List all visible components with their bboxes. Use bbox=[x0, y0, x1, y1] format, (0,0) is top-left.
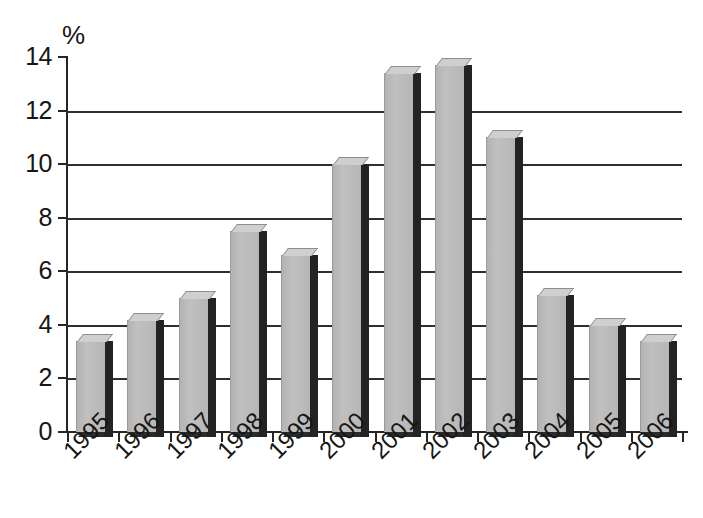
bar bbox=[486, 137, 523, 432]
bar-front-face bbox=[384, 73, 413, 432]
y-tick-mark bbox=[58, 217, 67, 219]
y-tick-mark bbox=[58, 431, 67, 433]
y-tick-label: 14 bbox=[0, 44, 52, 69]
y-tick-mark bbox=[58, 377, 67, 379]
bar-top-face bbox=[436, 58, 472, 66]
y-axis-unit-label: % bbox=[62, 22, 85, 48]
bar bbox=[384, 73, 421, 432]
y-tick-mark bbox=[58, 56, 67, 58]
bar-front-face bbox=[281, 255, 310, 432]
y-tick-label: 12 bbox=[0, 98, 52, 123]
bar-top-face bbox=[384, 66, 420, 74]
bar-top-face bbox=[179, 291, 215, 299]
bar-side-face bbox=[360, 164, 369, 437]
y-tick-label: 8 bbox=[0, 205, 52, 230]
bar bbox=[435, 65, 472, 432]
y-tick-mark bbox=[58, 163, 67, 165]
bar-top-face bbox=[589, 318, 625, 326]
x-tick-mark bbox=[682, 431, 684, 442]
bar-side-face bbox=[514, 137, 523, 437]
bar-top-face bbox=[77, 334, 113, 342]
bar-top-face bbox=[231, 224, 267, 232]
bar-front-face bbox=[435, 65, 464, 432]
bar bbox=[332, 164, 369, 432]
bar-side-face bbox=[463, 65, 472, 437]
bar bbox=[230, 231, 267, 432]
bar-top-face bbox=[128, 313, 164, 321]
bar-side-face bbox=[309, 255, 318, 437]
bar bbox=[281, 255, 318, 432]
bar-side-face bbox=[412, 73, 421, 437]
y-tick-label: 4 bbox=[0, 312, 52, 337]
bar-chart: % 02468101214 19951996199719981999200020… bbox=[0, 0, 703, 518]
y-tick-mark bbox=[58, 270, 67, 272]
y-tick-mark bbox=[58, 324, 67, 326]
y-tick-label: 10 bbox=[0, 151, 52, 176]
bar-top-face bbox=[641, 334, 677, 342]
y-tick-mark bbox=[58, 110, 67, 112]
bar-front-face bbox=[486, 137, 515, 432]
y-tick-label: 0 bbox=[0, 419, 52, 444]
bar-side-face bbox=[258, 231, 267, 437]
y-tick-label: 6 bbox=[0, 258, 52, 283]
bar-side-face bbox=[565, 295, 574, 437]
y-tick-label: 2 bbox=[0, 365, 52, 390]
bar-front-face bbox=[332, 164, 361, 432]
bar-front-face bbox=[230, 231, 259, 432]
bar-series bbox=[67, 57, 682, 432]
